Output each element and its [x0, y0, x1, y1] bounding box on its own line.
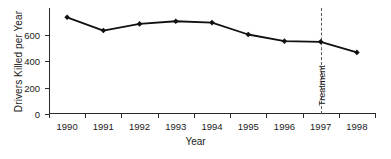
- x-tick-label: 1991: [93, 121, 114, 132]
- data-point-marker: [354, 50, 360, 56]
- data-point-marker: [245, 32, 251, 38]
- x-tick-label: 1998: [346, 121, 367, 132]
- y-tick-label: 200: [24, 82, 40, 93]
- x-tick-label: 1990: [57, 121, 78, 132]
- x-tick-label: 1997: [310, 121, 331, 132]
- x-tick-label: 1993: [165, 121, 186, 132]
- x-tick: [375, 113, 376, 118]
- data-point-marker: [318, 39, 324, 45]
- x-axis-title: Year: [0, 136, 391, 147]
- y-axis-title: Drivers Killed per Year: [13, 0, 24, 127]
- data-point-marker: [64, 14, 70, 20]
- y-tick-label: 0: [35, 109, 40, 120]
- line-chart: Drivers Killed per Year 0200400600 19901…: [0, 0, 391, 159]
- x-tick-label: 1996: [274, 121, 295, 132]
- x-tick-label: 1995: [238, 121, 259, 132]
- data-point-marker: [209, 20, 215, 26]
- data-point-marker: [101, 28, 107, 34]
- y-tick-label: 400: [24, 56, 40, 67]
- x-tick-label: 1994: [201, 121, 222, 132]
- plot-area: 0200400600 19901991199219931994199519961…: [49, 8, 375, 114]
- data-point-marker: [282, 38, 288, 44]
- y-tick-label: 600: [24, 29, 40, 40]
- x-tick-label: 1992: [129, 121, 150, 132]
- data-point-marker: [173, 18, 179, 24]
- data-series-drivers-killed: [49, 8, 375, 114]
- data-point-marker: [137, 21, 143, 27]
